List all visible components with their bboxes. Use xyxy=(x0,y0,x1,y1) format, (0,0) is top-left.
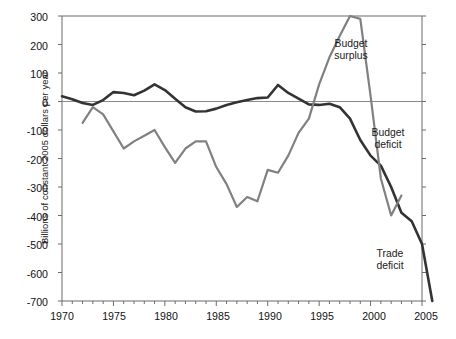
annotation-budget-surplus-line2: surplus xyxy=(316,50,386,62)
annotation-trade-deficit: Trade deficit xyxy=(355,248,425,271)
annotation-budget-surplus: Budget surplus xyxy=(316,38,386,61)
annotation-trade-deficit-line2: deficit xyxy=(355,260,425,272)
annotation-budget-deficit: Budget deficit xyxy=(353,127,423,150)
annotation-trade-deficit-line1: Trade xyxy=(355,248,425,260)
chart-figure: Billions of constant 2005 dollars per ye… xyxy=(0,0,456,339)
annotation-budget-deficit-line2: deficit xyxy=(353,139,423,151)
plot-area xyxy=(0,0,456,339)
annotation-budget-surplus-line1: Budget xyxy=(316,38,386,50)
annotation-budget-deficit-line1: Budget xyxy=(353,127,423,139)
